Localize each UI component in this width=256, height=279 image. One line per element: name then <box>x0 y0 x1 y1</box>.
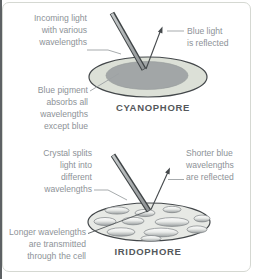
caption-cyanophore: CYANOPHORE <box>103 102 203 113</box>
platelet <box>105 207 129 214</box>
platelet <box>141 236 161 242</box>
platelet <box>194 215 210 222</box>
label-crystal-splits: Crystal splits light into different wave… <box>14 147 92 195</box>
figure-chromatophores: Incoming light with various wavelengths … <box>0 0 256 279</box>
label-longer-wavelengths: Longer wavelengths are transmitted throu… <box>4 226 86 262</box>
caption-iridophore: IRIDOPHORE <box>98 246 198 257</box>
label-blue-pigment: Blue pigment absorbs all wavelengths exc… <box>10 84 88 132</box>
reflected-arrowhead-icon <box>158 27 163 34</box>
reflected-arrowhead-icon <box>165 168 170 175</box>
platelet <box>107 228 135 236</box>
platelet <box>135 209 155 216</box>
label-incoming-light: Incoming light with various wavelengths <box>10 12 87 48</box>
platelet <box>155 218 189 227</box>
leader-line-crystal <box>94 190 127 200</box>
platelet <box>122 217 144 225</box>
label-shorter-blue-reflected: Shorter blue wavelengths are reflected <box>186 147 250 183</box>
label-blue-light-reflected: Blue light is reflected <box>187 25 247 49</box>
platelet <box>163 206 181 212</box>
platelet <box>187 226 207 233</box>
incoming-beam <box>113 156 149 211</box>
leader-line-incoming <box>87 50 121 54</box>
